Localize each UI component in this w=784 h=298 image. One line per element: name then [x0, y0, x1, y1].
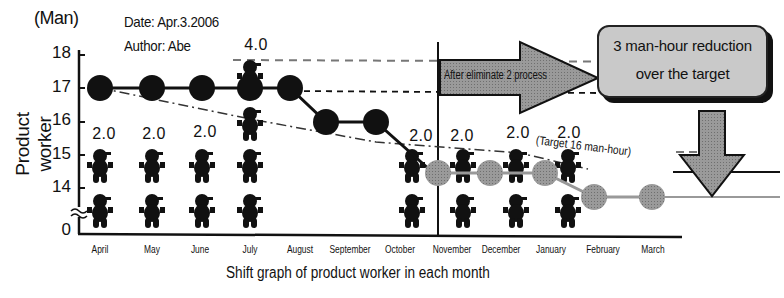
- y-tick-15: 15: [41, 144, 71, 164]
- count-december: 2.0: [506, 124, 530, 142]
- count-may: 2.0: [142, 125, 166, 143]
- y-tick-17: 17: [41, 77, 71, 97]
- month-april: April: [92, 243, 109, 255]
- month-october: October: [385, 243, 415, 255]
- count-april: 2.0: [92, 125, 116, 143]
- count-june: 2.0: [193, 123, 217, 141]
- count-july: 4.0: [244, 36, 268, 54]
- month-december: December: [482, 243, 521, 255]
- month-may: May: [144, 243, 160, 255]
- month-september: September: [329, 243, 370, 255]
- y-tick-14: 14: [41, 177, 71, 197]
- month-january: January: [536, 243, 566, 255]
- month-november: November: [433, 243, 472, 255]
- month-february: February: [586, 243, 620, 255]
- y-unit-label: (Man): [34, 8, 79, 29]
- arrow-label: After eliminate 2 process: [444, 68, 547, 82]
- author-label: Author: Abe: [124, 38, 191, 54]
- x-axis: [78, 234, 682, 237]
- month-june: June: [191, 243, 209, 255]
- down-arrow-icon: [680, 111, 744, 196]
- month-july: July: [243, 243, 258, 255]
- y-tick-18: 18: [41, 43, 71, 63]
- callout-line-1: 3 man-hour reduction: [599, 32, 766, 60]
- month-march: March: [641, 243, 664, 255]
- callout-line-2: over the target: [599, 60, 766, 88]
- count-november: 2.0: [450, 127, 474, 145]
- x-axis-title: Shift graph of product worker in each mo…: [226, 264, 490, 282]
- y-tick-16: 16: [41, 110, 71, 130]
- reduction-callout: 3 man-hour reduction over the target: [597, 25, 768, 98]
- date-label: Date: Apr.3.2006: [124, 14, 219, 30]
- y-tick-0: 0: [41, 220, 71, 240]
- count-october: 2.0: [409, 127, 433, 145]
- y-axis: [71, 50, 87, 234]
- month-august: August: [287, 243, 313, 255]
